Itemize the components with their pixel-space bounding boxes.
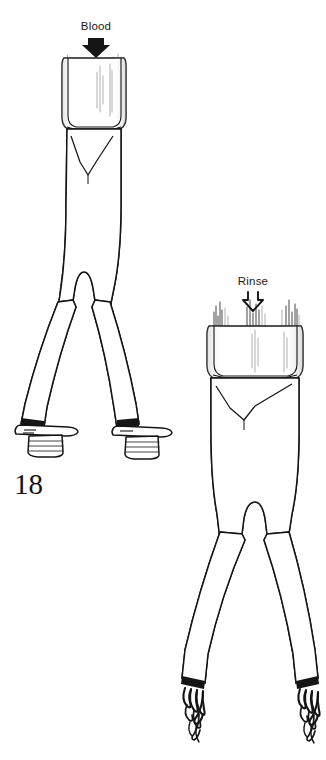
right-graft-clear-cuff (207, 326, 303, 381)
rinse-label: Rinse (238, 275, 268, 287)
left-graft-clear-cuff (62, 58, 126, 132)
figure-drawing-canvas: Blood (0, 0, 326, 760)
figure-illustration-root: Blood (0, 0, 326, 760)
figure-number: 18 (14, 468, 43, 500)
blood-label: Blood (81, 20, 111, 32)
